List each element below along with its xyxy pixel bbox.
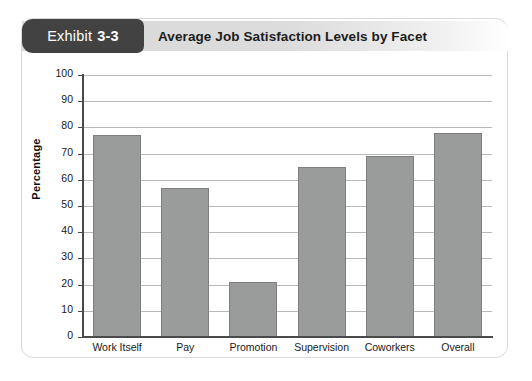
y-tick-label: 70 xyxy=(43,146,73,158)
y-tick-label: 40 xyxy=(43,224,73,236)
chart-area: Percentage 1009080706050403020100 Work I… xyxy=(22,53,509,358)
bar xyxy=(229,282,277,337)
x-axis-line xyxy=(82,336,493,338)
x-axis-category-label: Overall xyxy=(424,341,492,353)
y-tick-label: 10 xyxy=(43,303,73,315)
y-tick-label: 30 xyxy=(43,250,73,262)
x-axis-category-label: Promotion xyxy=(219,341,287,353)
y-tick-label: 50 xyxy=(43,198,73,210)
exhibit-card: Exhibit 3-3 Average Job Satisfaction Lev… xyxy=(21,18,508,358)
exhibit-tab-word: Exhibit xyxy=(47,28,92,44)
y-axis-line xyxy=(82,74,84,338)
bar xyxy=(93,135,141,337)
x-axis-category-label: Work Itself xyxy=(83,341,151,353)
y-axis-title: Percentage xyxy=(30,109,42,229)
bar xyxy=(161,188,209,337)
y-tick-label: 20 xyxy=(43,277,73,289)
y-tick-label: 0 xyxy=(43,329,73,341)
bar xyxy=(434,133,482,337)
x-axis-category-label: Pay xyxy=(151,341,219,353)
y-tick-label: 80 xyxy=(43,119,73,131)
bars-group: Work ItselfPayPromotionSupervisionCowork… xyxy=(83,75,492,337)
exhibit-number-tab: Exhibit 3-3 xyxy=(22,19,144,53)
y-tick-label: 90 xyxy=(43,93,73,105)
exhibit-title: Average Job Satisfaction Levels by Facet xyxy=(158,19,427,53)
x-axis-category-label: Coworkers xyxy=(356,341,424,353)
exhibit-header: Exhibit 3-3 Average Job Satisfaction Lev… xyxy=(22,19,509,53)
plot-area: 1009080706050403020100 Work ItselfPayPro… xyxy=(83,75,492,337)
exhibit-tab-number: 3-3 xyxy=(97,28,119,44)
bar xyxy=(366,156,414,337)
y-tick-label: 60 xyxy=(43,172,73,184)
bar xyxy=(298,167,346,337)
y-tick-label: 100 xyxy=(43,67,73,79)
x-axis-category-label: Supervision xyxy=(288,341,356,353)
